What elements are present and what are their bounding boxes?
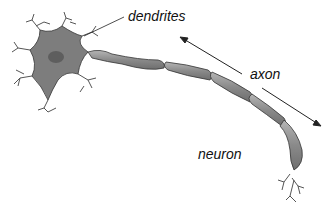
cell-body xyxy=(30,26,88,100)
axon-label: axon xyxy=(250,66,280,82)
nucleus xyxy=(48,51,64,63)
neuron-diagram xyxy=(0,0,325,211)
neuron-label: neuron xyxy=(198,146,242,162)
dendrites-leader xyxy=(84,17,124,36)
dendrites-label: dendrites xyxy=(128,8,186,24)
